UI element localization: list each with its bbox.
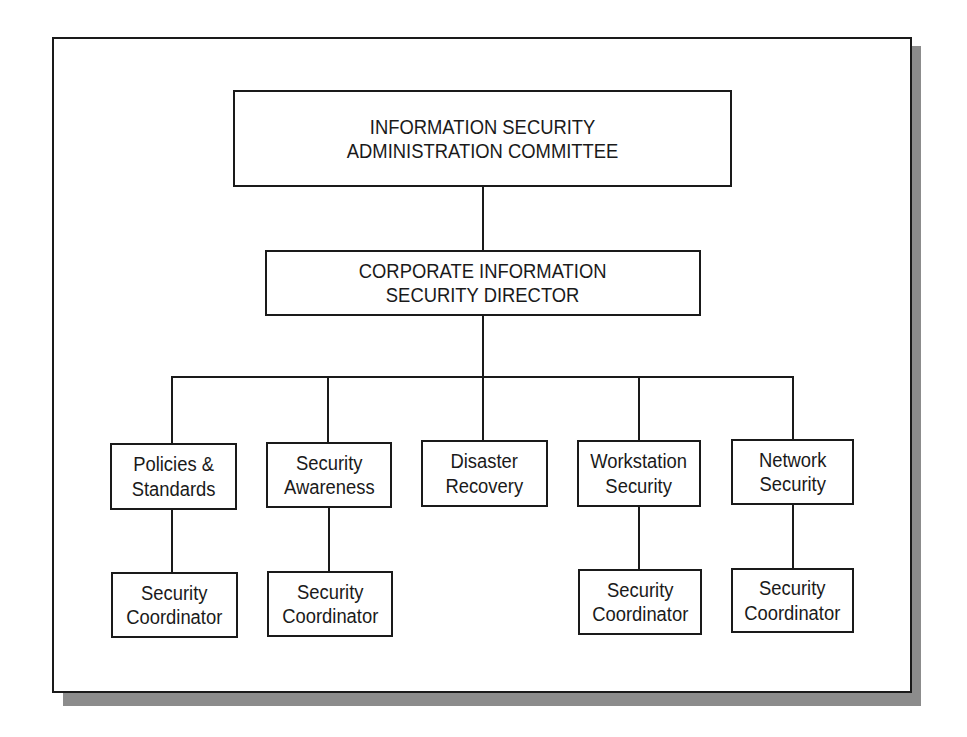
connector-coord-4 [638,506,640,570]
connector-coord-2 [328,507,330,572]
connector-director-bus [482,314,484,377]
dept-box-disaster: Disaster Recovery [421,440,548,507]
coordinator-box-workstation: Security Coordinator [578,569,702,635]
connector-dept-5 [792,376,794,440]
dept-label: Security Awareness [284,451,375,500]
dept-label: Workstation Security [591,449,688,498]
coordinator-box-policies: Security Coordinator [111,572,238,638]
director-box: CORPORATE INFORMATION SECURITY DIRECTOR [265,250,701,316]
connector-dept-4 [638,376,640,441]
coordinator-label: Security Coordinator [282,580,378,629]
connector-top-director [482,186,484,251]
connector-dept-1 [171,376,173,444]
connector-dept-2 [327,376,329,443]
dept-box-network: Network Security [731,439,854,505]
coordinator-box-awareness: Security Coordinator [267,571,393,637]
dept-label: Policies & Standards [132,452,216,501]
dept-label: Network Security [759,448,826,497]
dept-label: Disaster Recovery [446,449,524,498]
director-label: CORPORATE INFORMATION SECURITY DIRECTOR [359,259,607,307]
connector-coord-5 [792,504,794,569]
dept-box-policies: Policies & Standards [110,443,237,510]
coordinator-box-network: Security Coordinator [731,568,854,633]
committee-box: INFORMATION SECURITY ADMINISTRATION COMM… [233,90,732,187]
coordinator-label: Security Coordinator [126,581,222,630]
coordinator-label: Security Coordinator [744,576,840,625]
dept-box-awareness: Security Awareness [266,442,392,508]
coordinator-label: Security Coordinator [592,578,688,627]
connector-dept-3 [482,376,484,441]
committee-label: INFORMATION SECURITY ADMINISTRATION COMM… [347,115,619,163]
connector-coord-1 [171,509,173,573]
dept-box-workstation: Workstation Security [577,440,701,507]
